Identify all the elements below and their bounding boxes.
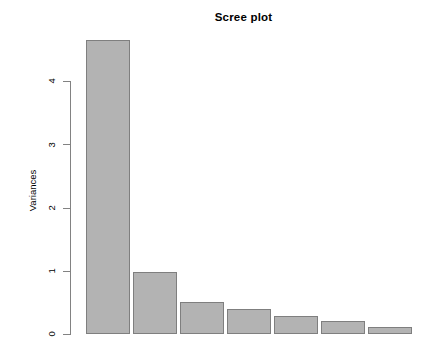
plot-area: 01234 — [0, 0, 429, 358]
y-tick-label-text: 4 — [47, 78, 57, 83]
y-tick-label: 2 — [42, 202, 62, 214]
y-tick-label-text: 1 — [47, 268, 57, 273]
y-tick-label: 4 — [42, 75, 62, 87]
y-tick-mark — [63, 334, 70, 335]
bar — [180, 302, 224, 334]
y-tick-mark — [63, 144, 70, 145]
y-tick-label: 1 — [42, 265, 62, 277]
bar — [321, 321, 365, 334]
y-tick-mark — [63, 271, 70, 272]
bar — [368, 327, 412, 334]
bar — [133, 272, 177, 334]
y-tick-mark — [63, 208, 70, 209]
bar — [227, 309, 271, 334]
y-axis-line — [70, 81, 71, 335]
y-tick-label: 3 — [42, 138, 62, 150]
y-tick-label-text: 2 — [47, 205, 57, 210]
bar — [86, 40, 130, 334]
bar — [274, 316, 318, 334]
y-tick-mark — [63, 81, 70, 82]
y-tick-label: 0 — [42, 328, 62, 340]
y-tick-label-text: 3 — [47, 142, 57, 147]
y-tick-label-text: 0 — [47, 331, 57, 336]
scree-plot-figure: Scree plot Variances 01234 — [0, 0, 429, 358]
